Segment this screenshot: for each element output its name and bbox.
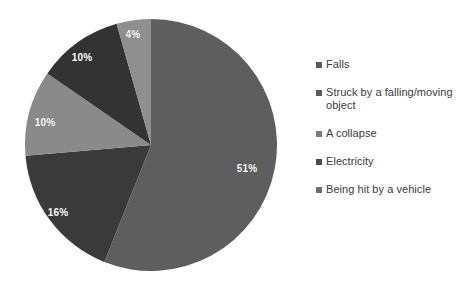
legend-swatch-icon xyxy=(316,90,322,96)
legend: FallsStruck by a falling/moving objectA … xyxy=(316,58,462,211)
pie-slice-value-label: 51% xyxy=(237,163,258,174)
legend-swatch-icon xyxy=(316,187,322,193)
legend-item[interactable]: Falls xyxy=(316,58,462,71)
legend-swatch-icon xyxy=(316,62,322,68)
legend-item[interactable]: A collapse xyxy=(316,127,462,140)
legend-item-label: Struck by a falling/moving object xyxy=(326,86,462,112)
pie-svg xyxy=(0,0,300,288)
pie-slice-group xyxy=(25,19,277,271)
legend-item-label: Being hit by a vehicle xyxy=(326,183,431,196)
legend-item-label: A collapse xyxy=(326,127,377,140)
legend-item-label: Falls xyxy=(326,58,349,71)
pie-slice-value-label: 16% xyxy=(48,207,69,218)
pie-slice-value-label: 10% xyxy=(35,117,56,128)
pie-chart-figure: 51%16%10%10%4% FallsStruck by a falling/… xyxy=(0,0,464,288)
legend-item-label: Electricity xyxy=(326,155,374,168)
pie-slice-value-label: 10% xyxy=(72,52,93,63)
legend-item[interactable]: Electricity xyxy=(316,155,462,168)
legend-swatch-icon xyxy=(316,159,322,165)
legend-item[interactable]: Struck by a falling/moving object xyxy=(316,86,462,112)
legend-item[interactable]: Being hit by a vehicle xyxy=(316,183,462,196)
legend-swatch-icon xyxy=(316,131,322,137)
pie-slice-value-label: 4% xyxy=(126,29,141,40)
pie-plot-area: 51%16%10%10%4% xyxy=(0,0,300,288)
